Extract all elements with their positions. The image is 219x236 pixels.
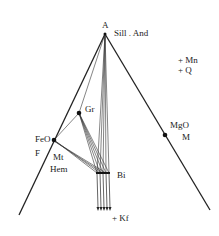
f-label: F [35, 148, 40, 158]
kf-arrows [97, 173, 110, 208]
m-label: M [182, 132, 190, 142]
arrow-heads [97, 207, 112, 211]
feo-point [52, 138, 57, 143]
mgo-label: MgO [170, 120, 190, 130]
kf-label: + Kf [112, 213, 129, 223]
hem-label: Hem [50, 164, 68, 174]
garnet-label: Gr [85, 104, 95, 114]
feo-label: FeO [35, 134, 51, 144]
bi-label: Bi [117, 170, 126, 180]
apex-label: A [102, 20, 109, 30]
tielines-gr-bi [79, 113, 109, 173]
excess-q-label: + Q [178, 65, 192, 75]
sill-and-label: Sill . And [114, 28, 149, 38]
afm-diagram: A Sill . And + Mn + Q Gr FeO F Mt Hem Bi… [0, 0, 219, 236]
diagram-canvas: A Sill . And + Mn + Q Gr FeO F Mt Hem Bi… [0, 0, 219, 236]
apex-point [104, 33, 107, 36]
tieline-feo-gr [54, 113, 79, 140]
left-edge [19, 34, 105, 215]
garnet-point [77, 111, 82, 116]
excess-mn-label: + Mn [178, 55, 198, 65]
mgo-point [163, 133, 168, 138]
mt-label: Mt [53, 152, 64, 162]
